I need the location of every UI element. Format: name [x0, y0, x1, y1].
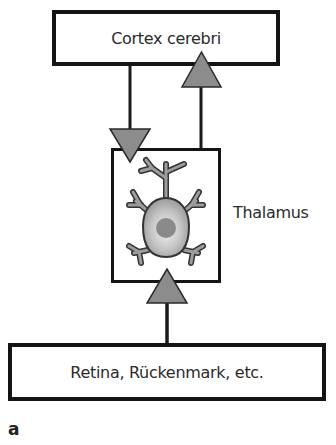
down-arrow-icon	[110, 129, 150, 162]
arrows-and-neuron	[0, 0, 336, 445]
panel-label: a	[8, 419, 19, 439]
neuron-icon	[129, 160, 203, 263]
thalamus-label: Thalamus	[233, 203, 309, 222]
up-arrow-icon	[182, 52, 221, 87]
input-up-arrow-icon	[147, 269, 187, 303]
nucleus	[156, 218, 176, 238]
